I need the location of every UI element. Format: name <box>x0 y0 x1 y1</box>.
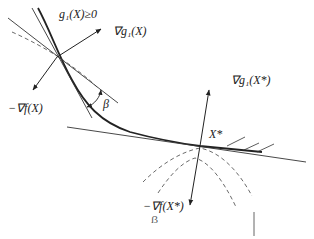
neg-grad-f-arrow-at-Xstar <box>190 146 200 205</box>
label-point-Xstar: X* <box>209 128 222 140</box>
label-constraint-region: g₁(X)≥0 <box>59 8 97 20</box>
tangent-line-at-Xstar <box>67 127 306 162</box>
grad-g-arrow-at-X <box>57 29 101 57</box>
label-neg-grad-f-at-Xstar: −∇f(X*) <box>143 200 184 212</box>
label-angle-beta: β <box>103 98 109 110</box>
hatch-mark <box>257 144 274 152</box>
stray-glyph-mark: ẞ <box>151 214 158 225</box>
label-neg-grad-f-at-X: −∇f(X) <box>8 102 43 114</box>
grad-g-arrow-at-Xstar <box>200 90 209 146</box>
label-grad-g-at-X: ∇g₁(X) <box>113 25 147 37</box>
hatch-mark <box>244 143 259 150</box>
neg-grad-f-arrow-at-X <box>33 57 57 90</box>
objective-contour-dashed-outer <box>143 148 252 196</box>
hatch-mark <box>227 137 245 146</box>
label-grad-g-at-Xstar: ∇g₁(X*) <box>231 74 271 86</box>
